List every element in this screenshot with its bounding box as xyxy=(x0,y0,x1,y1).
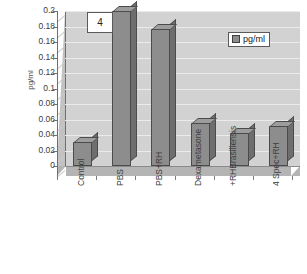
legend: pg/ml xyxy=(228,32,270,47)
y-axis-line xyxy=(57,11,58,176)
y-axis-tick-label: 0 xyxy=(25,161,55,170)
y-axis-tick-label: 0.08 xyxy=(25,99,55,108)
x-axis-label-line: +RH xyxy=(229,169,239,186)
legend-swatch-icon xyxy=(232,35,240,43)
gridline-depth-edge xyxy=(57,104,66,113)
y-axis-tick-mark xyxy=(53,42,57,43)
bar-pbs-rh xyxy=(151,29,170,166)
x-axis-label-control: Control xyxy=(77,159,87,186)
x-axis-label-line: 4 Spec+RH xyxy=(272,142,282,186)
x-axis-tick-mark xyxy=(214,176,215,180)
y-axis-tick-mark xyxy=(53,151,57,152)
bar-pbs xyxy=(112,11,131,166)
bar-side-face xyxy=(170,19,176,161)
x-axis-tick-mark xyxy=(292,176,293,180)
y-axis-tick-label: 0.04 xyxy=(25,130,55,139)
y-axis-tick-label: 0.02 xyxy=(25,146,55,155)
y-axis-tick-mark xyxy=(53,135,57,136)
plot-floor xyxy=(57,166,300,176)
gridline-depth-edge xyxy=(57,58,66,67)
legend-label: pg/ml xyxy=(243,34,265,44)
y-axis-tick-label: 0.2 xyxy=(25,6,55,15)
gridline xyxy=(65,120,300,121)
gridline-depth-edge xyxy=(57,89,66,98)
y-axis-tick-mark xyxy=(53,89,57,90)
gridline xyxy=(65,89,300,90)
x-axis-label-line: Dexametasone xyxy=(194,129,204,186)
gridline-depth-edge xyxy=(57,166,66,175)
y-axis-tick-mark xyxy=(53,104,57,105)
x-axis-label-brasiliensis-rh: Brasiliensis+RH xyxy=(229,126,239,186)
gridline xyxy=(65,151,300,152)
y-axis-tick-mark xyxy=(53,166,57,167)
gridline-depth-edge xyxy=(57,42,66,51)
gridline xyxy=(65,104,300,105)
y-axis-tick-mark xyxy=(53,27,57,28)
gridline-depth-edge xyxy=(57,27,66,36)
bar-front-face xyxy=(112,11,131,166)
y-axis-tick-label: 0.06 xyxy=(25,115,55,124)
y-axis-tick-label: 0.1 xyxy=(25,84,55,93)
x-axis-tick-mark xyxy=(57,176,58,180)
x-axis-label-dexametasone: Dexametasone xyxy=(194,129,204,186)
gridline-depth-edge xyxy=(57,11,66,20)
y-axis-tick-mark xyxy=(53,58,57,59)
x-axis-label-line: PBS xyxy=(116,169,126,186)
bar-front-face xyxy=(151,29,170,166)
x-axis-label-line: Brasiliensis xyxy=(229,126,239,169)
y-axis-tick-mark xyxy=(53,120,57,121)
bar-chart: pg/ml 0.20.180.160.140.120.10.080.060.04… xyxy=(0,0,307,274)
y-axis-tick-label: 0.16 xyxy=(25,37,55,46)
panel-number-box: 4 xyxy=(87,12,113,33)
gridline-depth-edge xyxy=(57,120,66,129)
y-axis-tick-label: 0.14 xyxy=(25,53,55,62)
x-axis-label-line: PBS+RH xyxy=(155,152,165,186)
gridline xyxy=(65,166,300,167)
x-axis-label-4-spec-rh: 4 Spec+RH xyxy=(272,142,282,186)
y-axis-tick-mark xyxy=(53,73,57,74)
x-axis-label-pbs-rh: PBS+RH xyxy=(155,152,165,186)
gridline-depth-edge xyxy=(57,135,66,144)
gridline-depth-edge xyxy=(57,73,66,82)
x-axis-tick-mark xyxy=(175,176,176,180)
x-axis-label-line: Control xyxy=(77,159,87,186)
x-axis-tick-mark xyxy=(96,176,97,180)
gridline xyxy=(65,135,300,136)
y-axis-tick-label: 0.18 xyxy=(25,22,55,31)
gridline xyxy=(65,73,300,74)
y-axis-tick-mark xyxy=(53,11,57,12)
x-axis-tick-mark xyxy=(135,176,136,180)
x-axis-label-pbs: PBS xyxy=(116,169,126,186)
bar-side-face xyxy=(131,1,137,161)
y-axis-tick-label: 0.12 xyxy=(25,68,55,77)
gridline-depth-edge xyxy=(57,151,66,160)
x-axis-tick-mark xyxy=(253,176,254,180)
gridline xyxy=(65,58,300,59)
